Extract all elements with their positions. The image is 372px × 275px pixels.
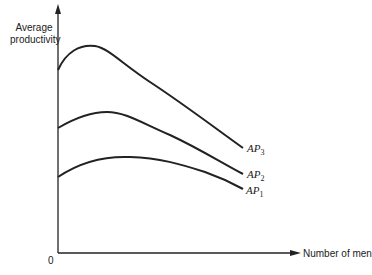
label-ap2-base: AP [247,168,260,180]
label-ap3-base: AP [247,142,260,154]
origin-label: 0 [48,255,54,266]
curve-ap3 [58,46,243,148]
label-ap1-sub: 1 [259,190,263,199]
label-ap1-base: AP [246,184,259,196]
y-axis-label: Average productivity [10,22,58,46]
label-ap3-sub: 3 [260,148,264,157]
x-axis-arrow-icon [290,250,301,256]
label-ap3: AP3 [247,142,264,157]
curve-ap2 [58,112,243,174]
curve-ap1 [58,157,243,189]
label-ap2-sub: 2 [260,174,264,183]
label-ap1: AP1 [246,184,263,199]
label-ap2: AP2 [247,168,264,183]
x-axis-label: Number of men [303,248,372,259]
y-axis-arrow-icon [55,4,61,14]
